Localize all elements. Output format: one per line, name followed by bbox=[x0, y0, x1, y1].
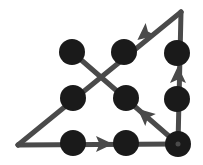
node-top-right bbox=[164, 40, 190, 66]
node-middle-left bbox=[60, 85, 86, 111]
bottom-right-vertex bbox=[176, 142, 181, 147]
node-middle-center bbox=[113, 85, 139, 111]
left-vertex bbox=[16, 143, 21, 148]
graph-canvas bbox=[0, 0, 203, 165]
nodes-layer bbox=[59, 39, 191, 157]
node-bottom-left bbox=[60, 130, 86, 156]
node-top-left bbox=[59, 39, 85, 65]
node-middle-right bbox=[164, 86, 190, 112]
graph-figure bbox=[0, 0, 203, 165]
node-bottom-middle bbox=[113, 130, 139, 156]
top-right-vertex bbox=[179, 10, 184, 15]
bottom-horizontal-edge bbox=[18, 144, 178, 145]
node-top-middle bbox=[111, 39, 137, 65]
